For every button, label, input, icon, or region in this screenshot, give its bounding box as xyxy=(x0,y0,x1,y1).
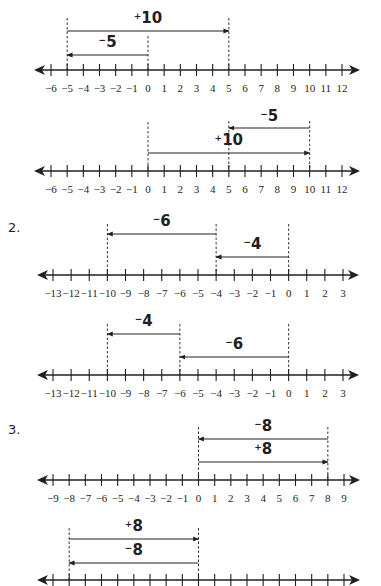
tick-label: −1 xyxy=(126,183,138,195)
tick-label: −13 xyxy=(44,387,62,399)
tick-label: −13 xyxy=(44,287,62,299)
problems-layer: −6−5−4−3−2−10123456789101112+10−5−6−5−4−… xyxy=(8,9,360,586)
number-line: −6−5−4−3−2−10123456789101112+10−5 xyxy=(34,9,360,94)
tick-label: −6 xyxy=(174,387,186,399)
jump-label: −4 xyxy=(243,235,261,253)
tick-label: −8 xyxy=(63,492,75,504)
tick-label: −7 xyxy=(156,287,168,299)
problem-number: 3. xyxy=(8,422,20,437)
tick-label: −3 xyxy=(228,287,240,299)
tick-label: 5 xyxy=(226,82,232,94)
tick-label: −1 xyxy=(265,287,277,299)
tick-label: −3 xyxy=(144,492,156,504)
number-line: +8−8 xyxy=(37,517,360,586)
tick-label: −4 xyxy=(128,492,140,504)
tick-label: 0 xyxy=(145,82,151,94)
tick-label: 12 xyxy=(337,183,348,195)
tick-label: 4 xyxy=(260,492,266,504)
jump-arrow: −8 xyxy=(199,417,328,439)
tick-label: −2 xyxy=(247,387,259,399)
tick-label: 1 xyxy=(161,183,167,195)
problem-3: 3.−9−8−7−6−5−4−3−2−10123456789−8+8+8−8 xyxy=(8,417,360,586)
jump-arrow: +10 xyxy=(67,9,229,31)
number-line: −13−12−11−10−9−8−7−6−5−4−3−2−10123−4−6 xyxy=(37,312,359,399)
tick-label: 8 xyxy=(275,183,281,195)
tick-label: −10 xyxy=(99,287,117,299)
tick-label: −9 xyxy=(120,387,132,399)
tick-label: −7 xyxy=(156,387,168,399)
tick-label: −3 xyxy=(228,387,240,399)
tick-label: 0 xyxy=(196,492,202,504)
tick-label: 7 xyxy=(258,82,264,94)
jump-label: +8 xyxy=(125,517,143,535)
tick-label: 1 xyxy=(304,287,310,299)
tick-label: −1 xyxy=(176,492,188,504)
tick-label: 3 xyxy=(340,287,346,299)
tick-label: 11 xyxy=(321,82,332,94)
tick-label: −4 xyxy=(210,287,222,299)
jump-label: +10 xyxy=(134,9,162,27)
problem-number: 2. xyxy=(8,220,20,235)
tick-label: −5 xyxy=(112,492,124,504)
tick-label: −3 xyxy=(94,183,106,195)
tick-label: 9 xyxy=(341,492,347,504)
tick-label: 1 xyxy=(304,387,310,399)
tick-label: −11 xyxy=(81,387,98,399)
tick-label: 5 xyxy=(226,183,232,195)
tick-label: −8 xyxy=(138,387,150,399)
tick-label: 8 xyxy=(325,492,331,504)
tick-label: 0 xyxy=(286,387,292,399)
tick-label: 12 xyxy=(337,82,348,94)
tick-label: −9 xyxy=(47,492,59,504)
tick-label: 4 xyxy=(210,82,216,94)
tick-label: 5 xyxy=(277,492,283,504)
tick-label: −1 xyxy=(265,387,277,399)
tick-label: −9 xyxy=(120,287,132,299)
tick-label: −10 xyxy=(99,387,117,399)
tick-label: −2 xyxy=(160,492,172,504)
jump-label: −5 xyxy=(260,107,278,125)
jump-label: +8 xyxy=(254,440,272,458)
tick-label: 0 xyxy=(145,183,151,195)
jump-label: −4 xyxy=(135,312,153,330)
tick-label: −12 xyxy=(63,387,80,399)
tick-label: −2 xyxy=(247,287,259,299)
tick-label: 2 xyxy=(178,82,184,94)
tick-label: 6 xyxy=(242,183,248,195)
tick-label: −4 xyxy=(77,82,89,94)
jump-label: −5 xyxy=(99,33,117,51)
tick-label: 1 xyxy=(212,492,218,504)
jump-arrow: −6 xyxy=(107,212,216,234)
tick-label: 2 xyxy=(178,183,184,195)
jump-label: −6 xyxy=(153,212,171,230)
jump-arrow: −4 xyxy=(216,235,289,257)
tick-label: −7 xyxy=(79,492,91,504)
tick-label: −6 xyxy=(174,287,186,299)
tick-label: −5 xyxy=(61,82,73,94)
jump-arrow: −5 xyxy=(229,107,310,128)
tick-label: −5 xyxy=(192,387,204,399)
problem-1: −6−5−4−3−2−10123456789101112+10−5−6−5−4−… xyxy=(34,9,360,195)
jump-arrow: −8 xyxy=(69,541,198,563)
tick-label: −12 xyxy=(63,287,80,299)
tick-label: −2 xyxy=(110,183,122,195)
problem-2: 2.−13−12−11−10−9−8−7−6−5−4−3−2−10123−6−4… xyxy=(8,212,359,399)
tick-label: 7 xyxy=(258,183,264,195)
tick-label: 1 xyxy=(161,82,167,94)
jump-label: −6 xyxy=(225,335,243,353)
tick-label: −3 xyxy=(94,82,106,94)
tick-label: 6 xyxy=(242,82,248,94)
jump-label: −8 xyxy=(125,541,143,559)
tick-label: −1 xyxy=(126,82,138,94)
tick-label: −8 xyxy=(138,287,150,299)
jump-arrow: +8 xyxy=(199,440,328,462)
jump-arrow: −5 xyxy=(67,33,148,55)
jump-label: +10 xyxy=(215,131,243,149)
jump-arrow: −6 xyxy=(180,335,289,357)
jump-arrow: +8 xyxy=(69,517,198,539)
tick-label: 9 xyxy=(291,183,297,195)
number-line: −6−5−4−3−2−10123456789101112−5+10 xyxy=(34,107,360,195)
tick-label: −4 xyxy=(210,387,222,399)
tick-label: −5 xyxy=(61,183,73,195)
tick-label: 10 xyxy=(304,82,316,94)
